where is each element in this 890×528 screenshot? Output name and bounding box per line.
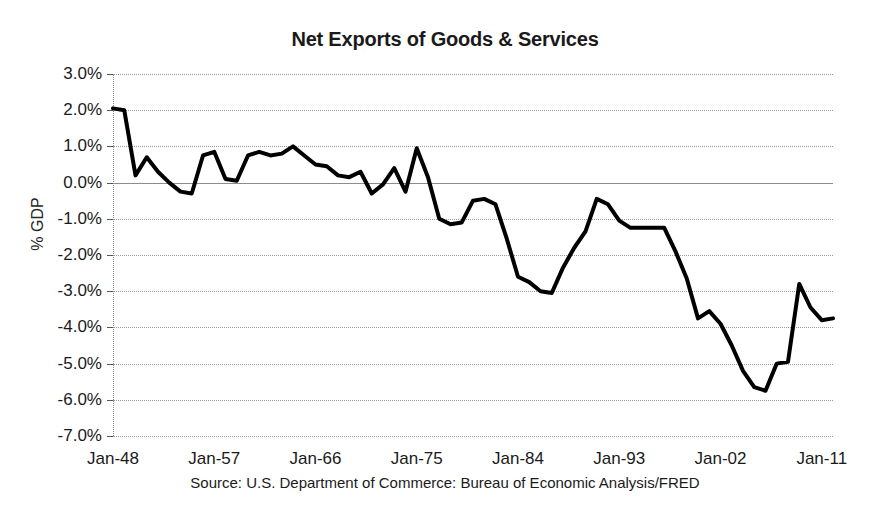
y-tick-label: 3.0%: [63, 64, 102, 84]
x-tick-label: Jan-02: [695, 449, 747, 469]
net-exports-line: [113, 108, 833, 390]
y-tick-label: -3.0%: [58, 281, 102, 301]
source-note: Source: U.S. Department of Commerce: Bur…: [0, 474, 890, 491]
x-tick-label: Jan-84: [492, 449, 544, 469]
x-tick-label: Jan-75: [391, 449, 443, 469]
x-tick-label: Jan-66: [290, 449, 342, 469]
plot-area: 3.0%2.0%1.0%0.0%-1.0%-2.0%-3.0%-4.0%-5.0…: [113, 74, 833, 436]
y-tick-label: 0.0%: [63, 173, 102, 193]
gridline: [113, 436, 833, 437]
y-tick-label: -1.0%: [58, 209, 102, 229]
y-tick-label: 1.0%: [63, 136, 102, 156]
y-tick-label: -5.0%: [58, 354, 102, 374]
x-tick-label: Jan-57: [188, 449, 240, 469]
x-tick-label: Jan-93: [593, 449, 645, 469]
y-axis-title: % GDP: [29, 164, 47, 284]
x-tick-label: Jan-48: [87, 449, 139, 469]
x-tick-label: Jan-11: [796, 449, 847, 469]
chart-figure: Net Exports of Goods & Services % GDP 3.…: [0, 0, 890, 528]
data-series-line: [113, 74, 833, 436]
y-tick-label: -4.0%: [58, 317, 102, 337]
y-tick-mark: [107, 436, 113, 437]
y-tick-label: -7.0%: [58, 426, 102, 446]
y-tick-label: 2.0%: [63, 100, 102, 120]
y-tick-label: -2.0%: [58, 245, 102, 265]
y-tick-label: -6.0%: [58, 390, 102, 410]
chart-title: Net Exports of Goods & Services: [0, 28, 890, 51]
